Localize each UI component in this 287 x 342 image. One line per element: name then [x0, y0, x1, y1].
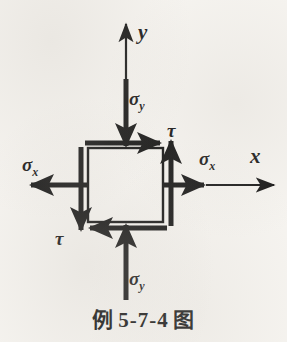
sigma-glyph: σ	[22, 154, 32, 175]
normal-stress-arrows	[31, 79, 204, 300]
sigma-glyph: σ	[199, 148, 209, 169]
tau-bottom-label: τ	[55, 229, 63, 248]
sigma-glyph: σ	[129, 88, 139, 109]
sigma-x-right-label: σx	[199, 149, 215, 168]
tau-top-label: τ	[167, 121, 175, 140]
figure-caption: 例5-7-4图	[0, 303, 287, 333]
subscript-x: x	[32, 165, 38, 179]
stress-element-square	[88, 148, 163, 222]
sigma-x-left-label: σx	[22, 155, 38, 174]
x-axis-label: x	[250, 146, 261, 167]
shear-stress-arrows	[81, 141, 171, 230]
caption-number: 5-7-4	[118, 308, 169, 332]
sigma-y-bottom-label: σy	[129, 269, 145, 288]
y-axis-label: y	[138, 22, 147, 43]
figure-page: y x σy σy σx σx τ τ 例5-7-4图	[0, 0, 287, 342]
subscript-x: x	[209, 159, 215, 173]
caption-suffix: 图	[173, 308, 195, 332]
caption-prefix: 例	[92, 308, 114, 332]
sigma-glyph: σ	[129, 268, 139, 289]
subscript-y: y	[139, 99, 144, 113]
sigma-y-top-label: σy	[129, 89, 145, 108]
subscript-y: y	[139, 279, 144, 293]
